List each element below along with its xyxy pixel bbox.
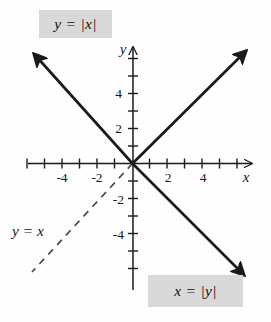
label-x-equals-abs-y: x = |y| [148,275,243,307]
x-tick-label-2: 2 [165,170,172,185]
x-axis [27,159,252,169]
label-y-equals-x: y = x [12,222,44,240]
x-tick-label-neg2: -2 [91,170,102,185]
ray-upper-right-shared [133,52,246,164]
label-y-equals-abs-x: y = |x| [39,10,112,38]
y-tick-label-neg2: -2 [113,192,124,207]
line-y-equals-x [32,164,133,273]
graph-canvas: -4 -2 2 4 4 2 -2 -4 x y [0,0,271,322]
y-tick-label-4: 4 [115,86,122,101]
y-tick-label-2: 2 [115,121,122,136]
y-axis-name-label: y [118,41,127,57]
x-axis-name-label: x [242,169,250,185]
x-tick-label-4: 4 [200,170,207,185]
ray-y-abs-x-left [35,55,133,164]
y-tick-label-neg4: -4 [113,227,124,242]
math-figure: -4 -2 2 4 4 2 -2 -4 x y y = |x| x = |y| … [0,0,271,322]
x-tick-label-neg4: -4 [56,170,67,185]
ray-x-abs-y-lower [133,164,244,275]
